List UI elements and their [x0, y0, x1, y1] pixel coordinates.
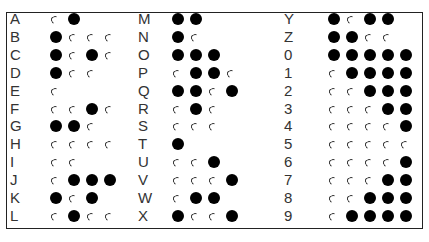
dot-icon — [346, 121, 356, 131]
char-label: Z — [284, 28, 300, 46]
morse-code — [50, 82, 68, 100]
char-label: W — [138, 189, 154, 207]
dot-icon — [68, 104, 78, 114]
char-label: Q — [138, 82, 154, 100]
dot-icon — [400, 139, 410, 149]
dash-icon — [400, 67, 412, 79]
dash-icon — [86, 174, 98, 186]
char-label: H — [10, 135, 26, 153]
morse-code — [50, 100, 122, 118]
morse-code — [50, 135, 122, 153]
dash-icon — [400, 85, 412, 97]
dot-icon — [328, 211, 338, 221]
dash-icon — [382, 103, 394, 115]
morse-code — [328, 189, 418, 207]
char-label: R — [138, 100, 154, 118]
dash-icon — [346, 49, 358, 61]
dot-icon — [226, 68, 236, 78]
char-label: V — [138, 171, 154, 189]
dot-icon — [172, 157, 182, 167]
dot-icon — [208, 86, 218, 96]
dash-icon — [86, 103, 98, 115]
dash-icon — [190, 13, 202, 25]
dash-icon — [172, 49, 184, 61]
char-label: I — [10, 153, 26, 171]
dash-icon — [400, 49, 412, 61]
dash-icon — [172, 31, 184, 43]
morse-code — [50, 46, 122, 64]
dash-icon — [50, 192, 62, 204]
dot-icon — [382, 157, 392, 167]
char-label: B — [10, 28, 26, 46]
char-label: 4 — [284, 117, 300, 135]
dot-icon — [328, 157, 338, 167]
morse-code — [172, 189, 226, 207]
dot-icon — [86, 68, 96, 78]
dot-icon — [68, 32, 78, 42]
char-label: L — [10, 207, 26, 225]
dot-icon — [172, 68, 182, 78]
dot-icon — [190, 121, 200, 131]
dot-icon — [208, 121, 218, 131]
dot-icon — [50, 175, 60, 185]
dash-icon — [364, 49, 376, 61]
dash-icon — [50, 49, 62, 61]
dot-icon — [86, 32, 96, 42]
dot-icon — [190, 211, 200, 221]
dot-icon — [172, 121, 182, 131]
char-label: E — [10, 82, 26, 100]
morse-code — [172, 28, 208, 46]
dash-icon — [364, 85, 376, 97]
dot-icon — [328, 86, 338, 96]
morse-code — [328, 28, 400, 46]
char-label: M — [138, 10, 154, 28]
dash-icon — [346, 31, 358, 43]
dot-icon — [208, 175, 218, 185]
dash-icon — [86, 192, 98, 204]
dash-icon — [50, 67, 62, 79]
morse-code — [172, 171, 244, 189]
dot-icon — [328, 193, 338, 203]
dot-icon — [104, 104, 114, 114]
dot-icon — [104, 50, 114, 60]
dot-icon — [382, 121, 392, 131]
dash-icon — [208, 49, 220, 61]
morse-code — [172, 135, 190, 153]
dash-icon — [382, 49, 394, 61]
morse-code — [172, 10, 208, 28]
char-label: G — [10, 117, 26, 135]
dash-icon — [68, 210, 80, 222]
morse-code — [50, 28, 122, 46]
dot-icon — [68, 157, 78, 167]
dash-icon — [190, 192, 202, 204]
dot-icon — [328, 139, 338, 149]
morse-code — [172, 64, 244, 82]
dash-icon — [400, 103, 412, 115]
dash-icon — [328, 31, 340, 43]
morse-code — [172, 100, 226, 118]
dot-icon — [364, 32, 374, 42]
dot-icon — [50, 157, 60, 167]
dash-icon — [400, 174, 412, 186]
morse-code — [50, 153, 86, 171]
dot-icon — [346, 104, 356, 114]
dot-icon — [346, 86, 356, 96]
morse-code — [172, 207, 244, 225]
dash-icon — [68, 120, 80, 132]
morse-code — [328, 135, 418, 153]
dot-icon — [346, 157, 356, 167]
morse-code — [172, 153, 226, 171]
morse-code — [50, 117, 104, 135]
dash-icon — [382, 210, 394, 222]
morse-code — [172, 117, 226, 135]
morse-code — [50, 207, 122, 225]
dash-icon — [346, 67, 358, 79]
morse-code — [50, 189, 104, 207]
dot-icon — [50, 104, 60, 114]
morse-code — [172, 82, 244, 100]
dash-icon — [86, 49, 98, 61]
char-label: T — [138, 135, 154, 153]
morse-code — [328, 64, 418, 82]
dash-icon — [172, 138, 184, 150]
dot-icon — [68, 193, 78, 203]
